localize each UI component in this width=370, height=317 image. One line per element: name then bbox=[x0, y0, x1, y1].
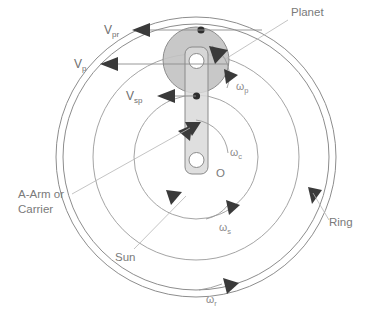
v-sp-arrowhead bbox=[157, 89, 175, 103]
planet-label: Planet bbox=[291, 6, 324, 18]
carrier-center-hole bbox=[189, 153, 204, 168]
planet-leader-line bbox=[227, 20, 288, 58]
carrier-label-line1: A-Arm or bbox=[18, 188, 64, 200]
sun-callout: Sun bbox=[115, 196, 186, 263]
omega-p-label: ωp bbox=[236, 80, 248, 95]
ring-label: Ring bbox=[329, 216, 353, 228]
omega-c-label: ωc bbox=[230, 146, 242, 161]
sun-leader-line bbox=[134, 196, 186, 249]
ring-callout: Ring bbox=[313, 193, 353, 228]
omega-s-indicator: ωs bbox=[166, 190, 240, 236]
v-p-label: Vp bbox=[74, 57, 87, 73]
carrier-arm bbox=[185, 47, 208, 174]
planetary-gear-diagram: Vpr Vp Vsp ωp bbox=[0, 0, 370, 317]
center-point-label: O bbox=[216, 167, 225, 179]
diagram-canvas: Vpr Vp Vsp ωp bbox=[0, 0, 370, 317]
omega-r-indicator: ωr bbox=[199, 278, 239, 308]
omega-r-arrowhead bbox=[223, 278, 239, 294]
v-p-arrowhead bbox=[100, 57, 118, 71]
carrier-leader-line bbox=[72, 128, 190, 194]
sun-label: Sun bbox=[115, 251, 135, 263]
carrier-planet-hole bbox=[189, 54, 204, 69]
omega-s-label: ωs bbox=[219, 221, 231, 236]
v-pr-arrowhead bbox=[132, 23, 150, 37]
ring-arrowhead bbox=[308, 187, 322, 204]
v-pr-label: Vpr bbox=[104, 23, 119, 39]
v-sp-label: Vsp bbox=[126, 89, 143, 105]
carrier-callout: A-Arm or Carrier bbox=[18, 128, 190, 215]
carrier-label-line2: Carrier bbox=[18, 203, 53, 215]
